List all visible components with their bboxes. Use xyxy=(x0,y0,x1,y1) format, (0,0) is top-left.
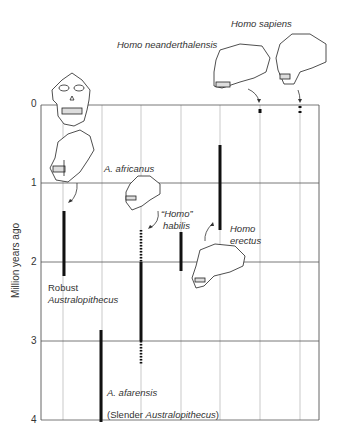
label-habilis-2: habilis xyxy=(163,220,190,231)
range-bars xyxy=(64,106,300,422)
arrow-africanus xyxy=(150,211,158,228)
label-slender-open: (Slender xyxy=(107,409,146,420)
label-afarensis: A. afarensis xyxy=(107,387,157,398)
erectus-skull-icon xyxy=(192,244,245,288)
arrow-erectus xyxy=(205,224,212,241)
robust-skull-front-icon xyxy=(52,73,90,126)
y-axis-label: Million years ago xyxy=(10,223,21,298)
africanus-skull-icon xyxy=(126,176,160,210)
label-slender: (Slender Australopithecus) xyxy=(107,409,219,420)
neanderthal-skull-icon xyxy=(214,44,270,88)
sapiens-skull-icon xyxy=(276,34,326,84)
label-erectus-2: erectus xyxy=(230,235,261,246)
y-tick-2: 2 xyxy=(31,256,37,267)
skull-drawings xyxy=(50,34,326,288)
arrow-robust xyxy=(70,183,77,202)
y-tick-0: 0 xyxy=(31,98,37,109)
label-africanus: A. africanus xyxy=(104,163,154,174)
robust-skull-side-icon xyxy=(50,130,94,182)
label-robust-1: Robust xyxy=(48,282,78,293)
y-tick-1: 1 xyxy=(31,177,37,188)
label-robust-2: Australopithecus xyxy=(48,294,118,305)
y-tick-4: 4 xyxy=(31,414,37,425)
label-slender-italic: Australopithecus xyxy=(146,409,216,420)
label-sapiens: Homo sapiens xyxy=(231,18,292,29)
label-habilis-1: “Homo” xyxy=(161,208,193,219)
y-tick-3: 3 xyxy=(31,335,37,346)
label-neanderthalensis: Homo neanderthalensis xyxy=(117,39,217,50)
label-erectus-1: Homo xyxy=(230,223,255,234)
label-slender-close: ) xyxy=(216,409,219,420)
